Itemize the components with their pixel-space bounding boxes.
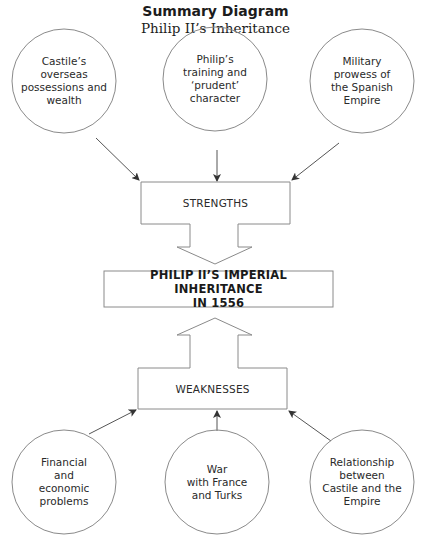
arrow-military-to-strengths: [292, 143, 339, 180]
arrow-relationship-to-weaknesses: [289, 411, 331, 441]
strength-label-1: Castile’s overseas possessions and wealt…: [14, 46, 114, 116]
strengths-label: STRENGTHS: [141, 182, 290, 224]
weakness-label-1: Financial and economic problems: [14, 447, 114, 517]
weakness-label-2: War with France and Turks: [167, 447, 267, 517]
central-label: PHILIP II’S IMPERIAL INHERITANCE IN 1556: [104, 271, 333, 307]
arrow-castile-to-strengths: [96, 138, 139, 180]
strength-label-3: Military prowess of the Spanish Empire: [312, 46, 412, 116]
weaknesses-label: WEAKNESSES: [138, 368, 287, 409]
weakness-label-3: Relationship between Castile and the Emp…: [312, 447, 412, 517]
strength-label-2: Philip’s training and ‘prudent’ characte…: [165, 44, 265, 114]
arrow-financial-to-weaknesses: [89, 410, 136, 434]
